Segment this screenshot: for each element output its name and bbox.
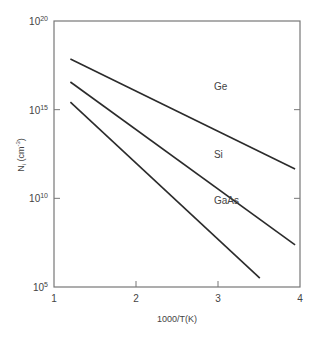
x-tick-label: 4 [297,293,303,304]
series-line-gaas [70,102,259,278]
series-label-gaas: GaAs [214,195,239,206]
x-tick-label: 2 [133,293,139,304]
series-lines: GeSiGaAs [70,59,295,278]
series-label-ge: Ge [214,81,228,92]
series-line-si [70,82,295,245]
y-tick-label: 1010 [29,192,48,204]
x-tick-label: 1 [51,293,57,304]
series-line-ge [70,59,295,169]
intrinsic-carrier-chart: 102010151010105 1234 GeSiGaAs 1000/T(K) … [0,0,311,341]
y-tick-label: 105 [33,281,48,293]
y-axis-ticks: 102010151010105 [29,15,300,293]
svg-text:Ni (cm-3): Ni (cm-3) [15,138,27,172]
y-tick-label: 1020 [29,15,48,27]
series-label-si: Si [214,149,223,160]
y-axis-title: Ni (cm-3) [15,138,27,172]
y-tick-label: 1015 [29,104,48,116]
x-axis-ticks: 1234 [51,281,303,304]
x-tick-label: 3 [215,293,221,304]
x-axis-title: 1000/T(K) [157,314,197,324]
